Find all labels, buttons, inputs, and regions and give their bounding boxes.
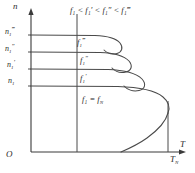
curve-label-prime: ′ <box>85 72 86 80</box>
curve-label-f1-prime: f1′ <box>80 74 86 83</box>
y-axis-arrow <box>28 8 33 15</box>
tick-prime: ′ <box>14 58 15 66</box>
y-axis-label: n <box>13 2 18 11</box>
curve-f1-rated-lower-branch <box>121 113 168 152</box>
x-axis-arrow <box>179 149 186 154</box>
curve-label-f1-rated: f₁ = fN <box>82 95 103 104</box>
curve-label-prime: ″ <box>85 54 88 62</box>
tick-prime: ‴ <box>12 25 15 33</box>
curve-label-base: f₁ = f <box>82 94 100 104</box>
rated-torque-sub: N <box>175 160 178 165</box>
origin-label: O <box>6 150 13 159</box>
tick-sub: 1 <box>12 81 15 86</box>
y-tick-label-n1-double-prime: n1″ <box>5 45 14 53</box>
y-tick-label-n1-prime: n1′ <box>7 61 15 69</box>
curve-label-f1-double-prime: f1″ <box>80 56 88 65</box>
x-axis-label: T <box>180 140 185 149</box>
y-tick-label-n1-triple-prime: n1‴ <box>5 28 14 36</box>
curve-label-f1-triple-prime: f1‴ <box>77 38 85 47</box>
curve-label-sub: N <box>100 100 103 105</box>
curve-label-prime: ‴ <box>82 36 85 44</box>
y-tick-label-n1: n1 <box>8 77 15 85</box>
curve-f1-prime <box>31 69 145 91</box>
motor-characteristic-diagram <box>0 0 195 173</box>
tick-prime: ″ <box>12 42 15 50</box>
frequency-inequality-annotation: f₁ < f₁′ < f₁″ < f₁‴ <box>70 6 130 15</box>
rated-torque-label: TN <box>170 155 178 164</box>
